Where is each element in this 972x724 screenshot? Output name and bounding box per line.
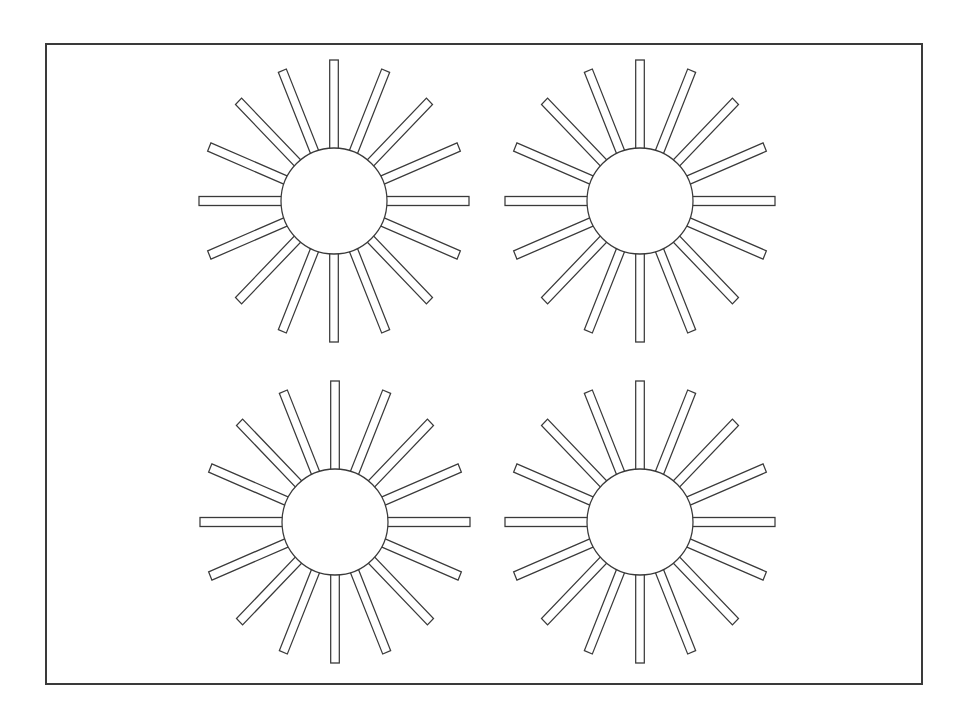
sun-ray: [384, 518, 470, 527]
sun-ray: [636, 252, 645, 342]
sun-bottom-right: [505, 381, 775, 663]
sun-center-circle: [281, 148, 387, 254]
sun-ray: [689, 518, 775, 527]
sun-center-circle: [282, 469, 388, 575]
sun-ray: [636, 381, 645, 471]
sun-ray: [689, 197, 775, 206]
sun-ray: [331, 381, 340, 471]
sun-ray: [331, 573, 340, 663]
sun-ray: [636, 573, 645, 663]
sun-bottom-left: [200, 381, 470, 663]
sun-ray: [330, 252, 339, 342]
sun-diagram-canvas: [0, 0, 972, 724]
sun-ray: [636, 60, 645, 150]
sun-ray: [505, 518, 591, 527]
sun-ray: [383, 197, 469, 206]
sun-ray: [505, 197, 591, 206]
sun-center-circle: [587, 469, 693, 575]
sun-center-circle: [587, 148, 693, 254]
sun-top-right: [505, 60, 775, 342]
sun-ray: [330, 60, 339, 150]
sun-ray: [200, 518, 286, 527]
sun-top-left: [199, 60, 469, 342]
sun-ray: [199, 197, 285, 206]
